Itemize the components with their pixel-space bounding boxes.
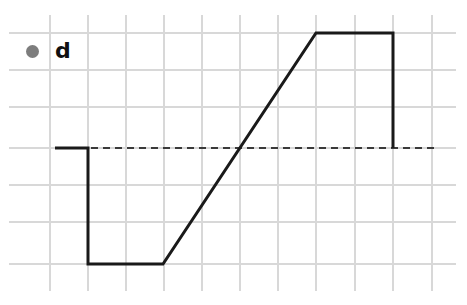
filled-circle-icon <box>26 45 39 58</box>
legend: d <box>26 38 71 64</box>
grid-vertical-lines <box>50 15 432 291</box>
legend-label-d: d <box>55 40 71 62</box>
chart-figure: d <box>0 0 467 305</box>
